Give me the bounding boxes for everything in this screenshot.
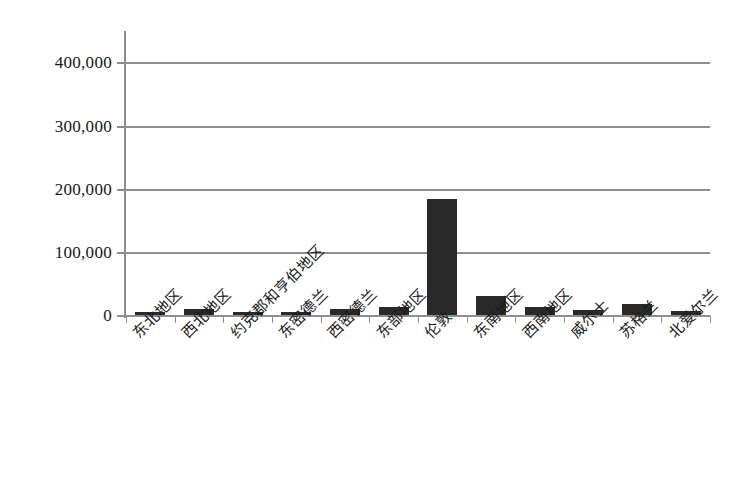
y-axis-line bbox=[124, 31, 126, 318]
bar-chart: 400,000 300,000 200,000 100,000 0 东北地区西北… bbox=[0, 0, 745, 486]
x-axis-tick bbox=[126, 316, 127, 323]
plot-area-background bbox=[126, 31, 710, 315]
y-axis-tick bbox=[117, 252, 127, 254]
x-axis-tick bbox=[175, 316, 176, 323]
gridline-100000 bbox=[126, 252, 710, 254]
x-axis-tick bbox=[369, 316, 370, 323]
y-axis-tick-label: 200,000 bbox=[6, 181, 112, 198]
y-axis-tick bbox=[117, 189, 127, 191]
x-axis-tick bbox=[613, 316, 614, 323]
x-axis-tick bbox=[661, 316, 662, 323]
y-axis-tick-label: 300,000 bbox=[6, 118, 112, 135]
y-axis-tick-label: 0 bbox=[6, 307, 112, 324]
y-axis-tick bbox=[117, 62, 127, 64]
x-axis-tick bbox=[223, 316, 224, 323]
y-axis-tick-label: 100,000 bbox=[6, 244, 112, 261]
x-axis-tick bbox=[272, 316, 273, 323]
x-axis-tick bbox=[321, 316, 322, 323]
gridline-400000 bbox=[126, 62, 710, 64]
x-axis-tick bbox=[710, 316, 711, 323]
x-axis-tick bbox=[515, 316, 516, 323]
y-axis-tick bbox=[117, 126, 127, 128]
bar bbox=[427, 199, 457, 315]
y-axis-tick-label: 400,000 bbox=[6, 54, 112, 71]
x-axis-tick bbox=[564, 316, 565, 323]
x-axis-tick bbox=[467, 316, 468, 323]
x-axis-tick bbox=[418, 316, 419, 323]
gridline-200000 bbox=[126, 189, 710, 191]
gridline-300000 bbox=[126, 126, 710, 128]
